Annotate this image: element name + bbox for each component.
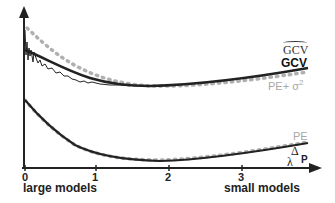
pe-label: PE xyxy=(293,131,308,142)
x-axis-arrow xyxy=(309,163,322,173)
gcv-label: GCV xyxy=(281,57,307,69)
x-label-small-models: small models xyxy=(224,182,300,194)
y-axis-arrow xyxy=(19,6,29,18)
pe-sigma-text: PE+ σ xyxy=(268,80,299,92)
pe-estimate-curve xyxy=(25,100,308,161)
gcv-hat-label: GCV xyxy=(283,44,308,56)
gcv-curve xyxy=(25,50,308,86)
lambda-symbol: λ xyxy=(287,156,293,168)
x-label-large-models: large models xyxy=(23,182,97,194)
p-subscript: P xyxy=(301,155,308,165)
pe-sigma-superscript: 2 xyxy=(299,78,303,87)
pe-sigma-label: PE+ σ2 xyxy=(268,79,303,92)
x-tick-label-2: 2 xyxy=(165,172,171,183)
